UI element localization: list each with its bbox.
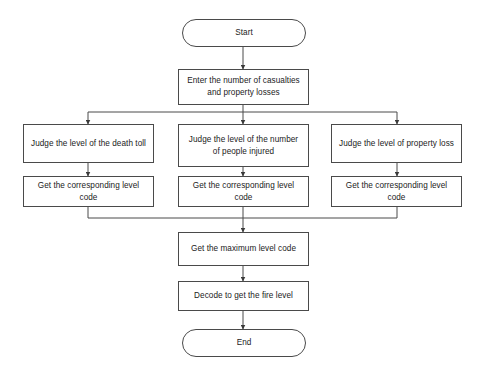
node-code-property-loss-label: Get the corresponding level code [338,180,455,204]
flowchart-canvas: Start Enter the number of casualties and… [0,0,483,371]
node-code-injured-label: Get the corresponding level code [185,180,302,204]
node-start[interactable]: Start [182,19,306,47]
node-decode-fire-level[interactable]: Decode to get the fire level [178,281,309,311]
node-judge-injured[interactable]: Judge the level of the number of people … [178,124,309,167]
node-judge-death-toll[interactable]: Judge the level of the death toll [23,124,154,163]
node-judge-death-toll-label: Judge the level of the death toll [30,138,147,150]
node-judge-injured-label: Judge the level of the number of people … [185,134,302,158]
node-decode-fire-level-label: Decode to get the fire level [185,290,302,302]
node-end-label: End [189,337,299,349]
node-max-level-code[interactable]: Get the maximum level code [178,232,309,266]
node-judge-property-loss[interactable]: Judge the level of property loss [331,124,462,163]
node-max-level-code-label: Get the maximum level code [185,243,302,255]
node-code-death-toll[interactable]: Get the corresponding level code [23,176,154,207]
node-input[interactable]: Enter the number of casualties and prope… [178,69,309,105]
node-code-injured[interactable]: Get the corresponding level code [178,176,309,207]
node-input-label: Enter the number of casualties and prope… [185,75,302,99]
node-start-label: Start [189,27,299,39]
node-code-death-toll-label: Get the corresponding level code [30,180,147,204]
node-code-property-loss[interactable]: Get the corresponding level code [331,176,462,207]
node-end[interactable]: End [182,329,306,357]
node-judge-property-loss-label: Judge the level of property loss [338,138,455,150]
